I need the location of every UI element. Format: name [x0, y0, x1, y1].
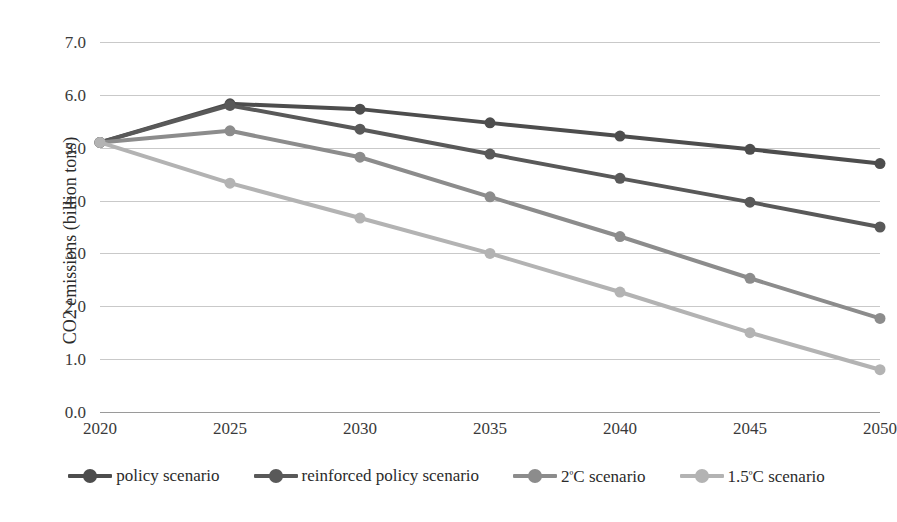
data-point — [615, 173, 626, 184]
y-axis-tick: 7.0 — [26, 34, 86, 51]
data-point — [225, 125, 236, 136]
legend-swatch — [680, 469, 724, 483]
legend-marker-icon — [269, 469, 283, 483]
data-point — [485, 117, 496, 128]
x-axis-tick: 2020 — [83, 420, 117, 437]
data-point — [225, 100, 236, 111]
legend-label: policy scenario — [116, 467, 219, 485]
x-axis-tick: 2050 — [863, 420, 897, 437]
x-axis-tick: 2025 — [213, 420, 247, 437]
y-axis-tick: 0.0 — [26, 404, 86, 421]
data-point — [355, 104, 366, 115]
legend-item[interactable]: reinforced policy scenario — [254, 467, 479, 485]
data-point — [355, 213, 366, 224]
data-point — [875, 313, 886, 324]
y-axis-tick: 2.0 — [26, 298, 86, 315]
data-point — [745, 144, 756, 155]
legend-item[interactable]: 2ºC scenario — [513, 466, 645, 486]
legend-swatch — [513, 469, 557, 483]
legend-item[interactable]: 1.5ºC scenario — [680, 466, 825, 486]
data-point — [745, 327, 756, 338]
y-axis-tick: 1.0 — [26, 351, 86, 368]
legend-label: 1.5ºC scenario — [728, 466, 825, 486]
y-axis-tick-labels: 0.01.02.03.04.05.06.07.0 — [14, 42, 86, 412]
data-point — [875, 222, 886, 233]
legend-swatch — [68, 469, 112, 483]
data-point — [485, 191, 496, 202]
chart-legend: policy scenarioreinforced policy scenari… — [0, 462, 893, 490]
x-axis-tick: 2030 — [343, 420, 377, 437]
data-point — [875, 158, 886, 169]
data-point — [485, 149, 496, 160]
y-axis-tick: 3.0 — [26, 245, 86, 262]
x-axis-tick: 2040 — [603, 420, 637, 437]
x-axis-tick-labels: 2020202520302035204020452050 — [100, 420, 880, 444]
data-point — [615, 287, 626, 298]
legend-marker-icon — [528, 469, 542, 483]
legend-item[interactable]: policy scenario — [68, 467, 219, 485]
data-point — [225, 178, 236, 189]
data-point — [745, 273, 756, 284]
data-point — [355, 124, 366, 135]
legend-label: 2ºC scenario — [561, 466, 645, 486]
data-point — [615, 131, 626, 142]
axis-baseline — [100, 412, 880, 413]
y-axis-tick: 4.0 — [26, 193, 86, 210]
data-point — [355, 152, 366, 163]
legend-marker-icon — [83, 469, 97, 483]
data-point — [745, 197, 756, 208]
legend-label: reinforced policy scenario — [302, 467, 479, 485]
series-4 — [95, 137, 886, 375]
data-point — [485, 248, 496, 259]
data-point — [875, 364, 886, 375]
x-axis-tick: 2035 — [473, 420, 507, 437]
series-lines — [100, 42, 880, 412]
legend-swatch — [254, 469, 298, 483]
y-axis-tick: 5.0 — [26, 140, 86, 157]
legend-marker-icon — [695, 469, 709, 483]
data-point — [95, 137, 106, 148]
data-point — [615, 231, 626, 242]
x-axis-tick: 2045 — [733, 420, 767, 437]
plot-area — [100, 42, 880, 412]
y-axis-tick: 6.0 — [26, 87, 86, 104]
